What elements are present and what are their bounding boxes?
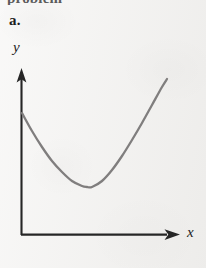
curve-path: [22, 79, 167, 187]
plot-area: [0, 0, 206, 268]
figure-panel: problem a. y x: [0, 0, 206, 268]
